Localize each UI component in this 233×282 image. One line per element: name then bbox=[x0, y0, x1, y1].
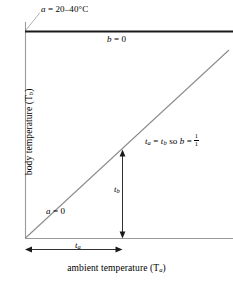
dimension-label-tb-sub: b bbox=[117, 187, 120, 194]
x-axis-title-main: ambient temperature (T bbox=[67, 263, 159, 273]
y-axis-title-main: body temperature (T bbox=[24, 95, 34, 175]
annotation-a-zero: a = 0 bbox=[46, 207, 65, 216]
annotation-slope-fraction: 11 bbox=[194, 133, 198, 147]
annotation-slope-so: so bbox=[167, 136, 180, 146]
annotation-slope-unity: ta = tb so b = 11 bbox=[145, 133, 199, 147]
x-axis-title-end: ) bbox=[162, 263, 165, 273]
annotation-a-zero-value: = 0 bbox=[51, 206, 65, 216]
dimension-arrow-tb bbox=[120, 150, 126, 239]
annotation-slope-b-eq: = bbox=[184, 136, 194, 146]
annotation-a-range: a = 20–40°C bbox=[41, 5, 88, 14]
annotation-a-range-value: = 20–40°C bbox=[46, 4, 89, 14]
annotation-leader-line bbox=[26, 13, 40, 31]
y-axis-title-end: ) bbox=[24, 89, 34, 92]
annotation-b-zero: b = 0 bbox=[107, 35, 126, 44]
annotation-b-zero-value: = 0 bbox=[112, 34, 126, 44]
thermoregulation-figure: a = 20–40°C b = 0 a = 0 ta = tb so b = 1… bbox=[0, 0, 233, 282]
annotation-slope-eq: = bbox=[151, 136, 161, 146]
y-axis-title-sub: b bbox=[27, 92, 34, 95]
dimension-label-ta-sub: a bbox=[78, 243, 81, 250]
x-axis-title: ambient temperature (Ta) bbox=[0, 264, 233, 274]
y-axis-title: body temperature (Tb) bbox=[25, 52, 35, 212]
dimension-arrow-ta bbox=[25, 247, 123, 253]
dimension-label-ta: ta bbox=[75, 241, 81, 251]
dimension-label-tb: tb bbox=[114, 185, 120, 195]
annotation-slope-fraction-denominator: 1 bbox=[194, 141, 198, 148]
